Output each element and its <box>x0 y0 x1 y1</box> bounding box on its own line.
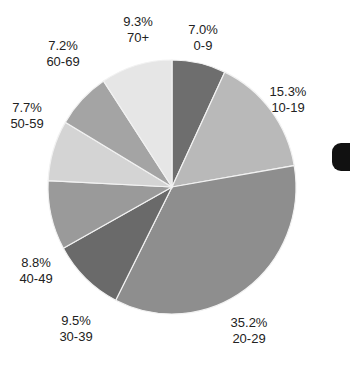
slice-category: 10-19 <box>258 100 318 116</box>
slice-label-70plus: 9.3% 70+ <box>108 14 168 46</box>
slice-percent: 7.7% <box>0 100 57 116</box>
slice-label-40-49: 8.8% 40-49 <box>6 255 66 287</box>
slice-label-30-39: 9.5% 30-39 <box>46 313 106 345</box>
slice-percent: 9.5% <box>46 313 106 329</box>
slice-category: 60-69 <box>33 54 93 70</box>
slice-category: 20-29 <box>219 331 279 347</box>
slice-label-60-69: 7.2% 60-69 <box>33 38 93 70</box>
slice-label-20-29: 35.2% 20-29 <box>219 315 279 347</box>
slice-percent: 7.2% <box>33 38 93 54</box>
slice-percent: 8.8% <box>6 255 66 271</box>
slice-percent: 15.3% <box>258 84 318 100</box>
clipped-shape <box>332 143 350 171</box>
slice-label-10-19: 15.3% 10-19 <box>258 84 318 116</box>
slice-percent: 7.0% <box>173 22 233 38</box>
slice-percent: 35.2% <box>219 315 279 331</box>
slice-category: 30-39 <box>46 329 106 345</box>
slice-label-50-59: 7.7% 50-59 <box>0 100 57 132</box>
slice-category: 50-59 <box>0 116 57 132</box>
slice-percent: 9.3% <box>108 14 168 30</box>
slice-category: 0-9 <box>173 38 233 54</box>
slice-category: 70+ <box>108 30 168 46</box>
slice-label-0-9: 7.0% 0-9 <box>173 22 233 54</box>
slice-category: 40-49 <box>6 271 66 287</box>
